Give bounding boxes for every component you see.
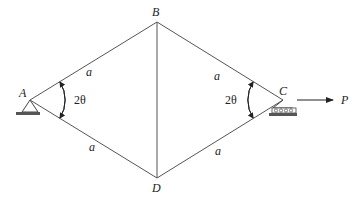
member-AB-label: a bbox=[86, 65, 92, 79]
node-C-label: C bbox=[279, 84, 288, 98]
member-AD bbox=[30, 100, 157, 178]
pin-support-icon bbox=[16, 100, 40, 115]
member-AD-label: a bbox=[89, 140, 95, 154]
member-BC bbox=[157, 22, 283, 100]
node-B-label: B bbox=[152, 5, 160, 19]
angle-C-label: 2θ bbox=[225, 93, 237, 107]
node-D-label: D bbox=[151, 181, 161, 195]
roller-support-icon bbox=[269, 100, 297, 116]
member-DC bbox=[157, 100, 283, 178]
angle-A-label: 2θ bbox=[74, 93, 86, 107]
load-label: P bbox=[340, 93, 349, 107]
node-A-label: A bbox=[18, 86, 27, 100]
angle-arc-C-icon bbox=[248, 82, 253, 118]
truss-diagram: a a a a A B C D 2θ 2θ P bbox=[0, 0, 362, 200]
angle-arc-A-icon bbox=[60, 82, 65, 118]
member-BC-label: a bbox=[214, 69, 220, 83]
member-DC-label: a bbox=[215, 144, 221, 158]
member-AB bbox=[30, 22, 157, 100]
